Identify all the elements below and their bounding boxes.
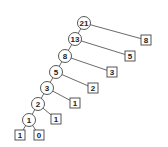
leaf-label: 1: [73, 99, 78, 108]
leaf-node: 1: [51, 114, 61, 124]
tree-edge: [65, 56, 112, 72]
fibonacci-tree-diagram: 21138532185321110: [0, 0, 168, 147]
node-label: 3: [45, 84, 50, 93]
leaf-node: 8: [141, 35, 151, 45]
tree-edge: [75, 39, 130, 56]
node-label: 1: [27, 116, 32, 125]
leaf-label: 1: [54, 115, 59, 124]
node-label: 8: [63, 52, 68, 61]
tree-edge: [84, 23, 146, 40]
leaf-node: 2: [88, 83, 98, 93]
nodes-layer: 21138532185321110: [15, 17, 151, 141]
leaf-node: 5: [125, 51, 135, 61]
node-label: 13: [71, 35, 80, 44]
leaf-node: 0: [34, 130, 44, 140]
tree-canvas: 21138532185321110: [0, 0, 168, 147]
internal-node: 1: [23, 114, 36, 127]
leaf-label: 1: [18, 131, 23, 140]
node-label: 2: [36, 100, 41, 109]
internal-node: 21: [78, 17, 91, 30]
leaf-label: 0: [37, 131, 42, 140]
leaf-label: 3: [110, 68, 115, 77]
edges-layer: [20, 23, 146, 135]
internal-node: 2: [32, 98, 45, 111]
leaf-label: 8: [144, 36, 149, 45]
leaf-node: 3: [107, 67, 117, 77]
node-label: 5: [54, 68, 59, 77]
internal-node: 8: [59, 50, 72, 63]
internal-node: 13: [69, 33, 82, 46]
leaf-node: 1: [15, 130, 25, 140]
leaf-label: 5: [128, 52, 133, 61]
leaf-label: 2: [91, 84, 96, 93]
leaf-node: 1: [70, 98, 80, 108]
node-label: 21: [80, 19, 89, 28]
internal-node: 3: [41, 82, 54, 95]
internal-node: 5: [50, 66, 63, 79]
